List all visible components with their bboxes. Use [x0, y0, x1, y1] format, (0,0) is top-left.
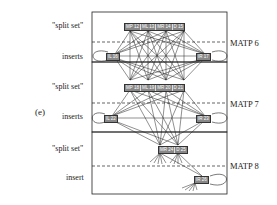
state-ir-26: IR 26 [195, 177, 208, 183]
state-mr-24: MR 24 [159, 147, 175, 153]
state-il-22: IL 22 [105, 116, 117, 122]
state-mr-20: MR 20 [156, 85, 172, 91]
row-label-split-set-6: "split set" [52, 21, 83, 30]
row-label-inserts-7: inserts [62, 112, 83, 121]
matp-8-label: MATP 8 [230, 161, 259, 171]
row-label-inserts-6: inserts [62, 52, 83, 61]
split-set-node-6: MP 12 ML 13 MR 14 D 15 [124, 23, 185, 31]
state-mp-12: MP 12 [125, 24, 141, 30]
insert-node-ir-23: IR 23 [196, 115, 211, 123]
state-d-21: D 21 [173, 85, 185, 91]
matp-7-label: MATP 7 [230, 99, 259, 109]
figure-label: (e) [35, 107, 45, 117]
split-set-node-7: MP 18 ML 19 MR 20 D 21 [124, 84, 185, 92]
row-label-insert-8: insert [66, 173, 84, 182]
state-ir-17: IR 17 [197, 54, 210, 60]
row-label-split-set-8: "split set" [52, 144, 83, 153]
state-d-25: D 25 [175, 147, 187, 153]
insert-node-il-22: IL 22 [104, 115, 118, 123]
state-mp-18: MP 18 [125, 85, 141, 91]
insert-node-il-16: IL 16 [106, 53, 120, 61]
row-label-split-set-7: "split set" [52, 82, 83, 91]
insert-node-ir-17: IR 17 [196, 53, 211, 61]
state-d-15: D 15 [173, 24, 185, 30]
state-ir-23: IR 23 [197, 116, 210, 122]
insert-node-ir-26: IR 26 [194, 176, 209, 184]
state-ml-19: ML 19 [141, 85, 156, 91]
state-il-16: IL 16 [107, 54, 119, 60]
state-ml-13: ML 13 [141, 24, 156, 30]
matp-6-label: MATP 6 [230, 38, 259, 48]
state-mr-14: MR 14 [156, 24, 172, 30]
split-set-node-8: MR 24 D 25 [158, 146, 188, 154]
